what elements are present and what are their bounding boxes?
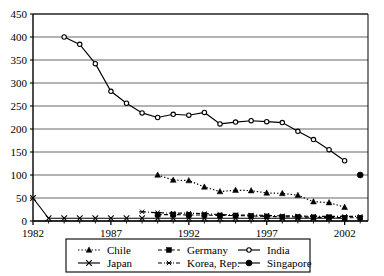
data-point [249,119,253,123]
y-tick-label: 0 [22,215,28,227]
data-point [311,137,315,141]
data-point [171,112,175,116]
data-point [327,215,332,220]
data-point [93,61,97,65]
data-point [109,89,113,93]
data-point [311,199,317,204]
series-india [62,35,347,163]
data-point [342,204,348,209]
series-chile [155,172,348,210]
y-tick-label: 300 [11,77,28,89]
chart-legend: ChileGermanyIndiaJapanKorea, Rep.Singapo… [66,239,312,272]
line-chart: 450400350300250200150100500 198219871992… [0,0,384,276]
data-point [62,35,66,39]
data-point [357,172,363,178]
y-tick-label: 350 [11,54,28,66]
data-point [202,110,206,114]
legend-marker [246,260,252,266]
data-point [140,111,144,115]
data-point [296,129,300,133]
y-tick-label: 400 [11,31,28,43]
y-tick-label: 100 [11,169,28,181]
x-tick-label: 1987 [100,227,123,239]
data-point [280,120,284,124]
data-point [327,148,331,152]
series-line [64,37,344,161]
gridlines-group [33,14,368,221]
chart-container: 450400350300250200150100500 198219871992… [0,0,384,276]
data-point [139,210,145,214]
legend-label: Chile [107,244,131,256]
x-tick-label: 1982 [22,227,44,239]
series-singapore [357,172,363,178]
data-point [279,190,285,195]
x-tick-labels-group: 19821987199219972002 [22,227,356,239]
x-tick-label: 1997 [256,227,279,239]
y-tick-label: 450 [11,8,28,20]
legend-marker [167,248,172,253]
data-point [265,119,269,123]
data-point [217,188,223,193]
data-point [311,215,316,220]
data-point [295,192,301,197]
legend-label: Singapore [267,257,312,269]
data-point [187,113,191,117]
y-tick-label: 50 [16,192,28,204]
data-point [342,159,346,163]
legend-marker [247,248,251,252]
x-tick-label: 2002 [334,227,356,239]
legend-label: Korea, Rep. [187,257,240,269]
legend-label: Germany [187,244,228,256]
y-tick-labels-group: 450400350300250200150100500 [11,8,28,227]
data-point [78,42,82,46]
data-point [201,184,207,189]
y-tick-label: 150 [11,146,28,158]
data-point [218,122,222,126]
legend-label: India [267,244,290,256]
y-tick-label: 200 [11,123,28,135]
chart-title-cropped [30,0,360,3]
x-tick-label: 1992 [178,227,200,239]
data-point [155,115,159,119]
y-tick-label: 250 [11,100,28,112]
data-point [233,120,237,124]
data-series-group [30,35,363,221]
data-point [186,177,192,182]
legend-label: Japan [107,257,133,269]
data-point [124,101,128,105]
data-point [248,188,254,193]
